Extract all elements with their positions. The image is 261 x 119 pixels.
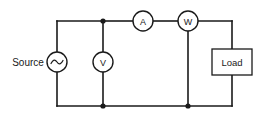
voltmeter-letter: V [100,58,106,68]
load-label: Load [221,57,242,68]
wattmeter-symbol[interactable]: W [178,11,198,31]
circuit-diagram-canvas: Source V A W Load [0,0,261,119]
ac-source-symbol[interactable] [47,52,67,72]
voltmeter-symbol[interactable]: V [93,52,113,72]
ammeter-symbol[interactable]: A [133,11,153,31]
ammeter-letter: A [140,17,146,27]
wattmeter-letter: W [184,17,193,27]
junction-dot-bottom-voltmeter [100,103,105,108]
source-label: Source [12,57,44,68]
circuit-schematic: Source V A W Load [0,0,261,119]
load-symbol[interactable]: Load [212,49,252,75]
junction-dot-bottom-wattmeter [185,103,190,108]
junction-dot-top-voltmeter [100,18,105,23]
